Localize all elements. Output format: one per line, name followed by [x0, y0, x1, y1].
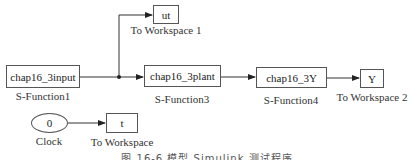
to-workspace1-block[interactable]: ut: [153, 5, 179, 24]
to-workspace-variable: t: [120, 117, 123, 129]
s-function4-name: chap16_3Y: [266, 72, 317, 84]
to-workspace1-label: To Workspace 1: [131, 24, 202, 36]
s-function1-block[interactable]: chap16_3input: [6, 65, 80, 88]
clock-block[interactable]: 0: [31, 113, 68, 133]
s-function4-label: S-Function4: [264, 94, 318, 106]
s-function1-name: chap16_3input: [10, 71, 75, 83]
clock-label: Clock: [36, 135, 62, 147]
to-workspace1-variable: ut: [162, 9, 171, 21]
s-function3-label: S-Function3: [155, 93, 209, 105]
to-workspace2-block[interactable]: Y: [360, 69, 384, 88]
s-function3-name: chap16_3plant: [150, 70, 215, 82]
figure-caption: 图 16-6 模型 Simulink 测试程序: [121, 150, 292, 160]
s-function1-label: S-Function1: [16, 90, 70, 102]
s-function4-block[interactable]: chap16_3Y: [256, 67, 327, 88]
to-workspace-label: To Workspace: [91, 136, 154, 148]
s-function3-block[interactable]: chap16_3plant: [144, 65, 221, 87]
simulink-diagram: ut To Workspace 1 chap16_3input S-Functi…: [0, 0, 414, 160]
to-workspace2-label: To Workspace 2: [337, 91, 408, 103]
clock-value: 0: [47, 117, 53, 129]
to-workspace2-variable: Y: [368, 73, 376, 85]
to-workspace-block[interactable]: t: [106, 113, 138, 133]
branch-junction-dot: [117, 75, 121, 79]
